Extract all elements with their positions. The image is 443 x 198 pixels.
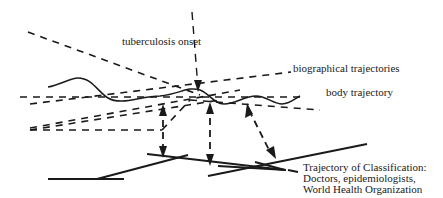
- double-arrow-middle: [206, 102, 214, 166]
- body-trajectory-label: body trajectory: [326, 87, 393, 98]
- biographical-trajectories-label: biographical trajectories: [293, 63, 400, 74]
- double-arrow-right: [245, 103, 276, 159]
- classification-label: Trajectory of Classification: Doctors, e…: [303, 162, 427, 195]
- tuberculosis-onset-label: tuberculosis onset: [122, 36, 201, 47]
- onset-arrow: [192, 12, 202, 92]
- body-trajectory-curve: [48, 78, 300, 104]
- double-arrow-left: [159, 104, 167, 158]
- diagram-canvas: tuberculosis onset biographical trajecto…: [0, 0, 443, 198]
- biographical-trajectory-lines: [20, 72, 320, 130]
- classification-label-line-3: World Health Organization: [303, 184, 427, 195]
